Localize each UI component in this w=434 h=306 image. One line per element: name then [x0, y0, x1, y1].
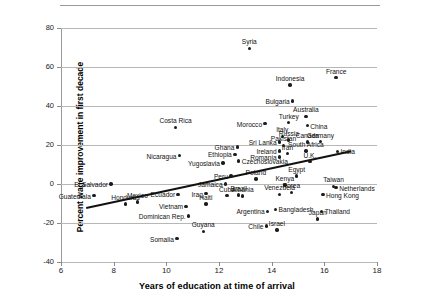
data-point-label: Ghana	[215, 143, 235, 150]
data-point-label: China	[310, 122, 327, 129]
data-point-label: Syria	[242, 38, 257, 45]
data-point	[237, 159, 240, 162]
data-point-label: Costa Rica	[159, 117, 191, 124]
data-point-label: Egypt	[288, 165, 305, 172]
data-point	[334, 186, 337, 189]
data-point-label: Australia	[293, 106, 319, 113]
data-point	[274, 208, 277, 211]
data-point-label: France	[326, 67, 347, 74]
data-point-label: El Salvador	[74, 181, 108, 188]
data-point-label: Taiwan	[323, 176, 344, 183]
data-point	[306, 124, 309, 127]
data-point	[308, 160, 311, 163]
data-point	[176, 193, 179, 196]
data-point-label: Israel	[269, 219, 285, 226]
data-point-label: Hong Kong	[326, 191, 359, 198]
data-point	[225, 194, 228, 197]
y-tick-label: 80	[26, 24, 54, 32]
data-point-label: Argentina	[236, 208, 264, 215]
data-point	[304, 115, 307, 118]
data-point	[316, 217, 319, 220]
data-point	[136, 200, 139, 203]
data-point	[237, 193, 240, 196]
data-point-label: Guyana	[192, 221, 215, 228]
data-point	[291, 99, 294, 102]
data-point-label: Morocco	[237, 120, 262, 127]
y-tick-label: 20	[26, 141, 54, 149]
data-point-label: Ecuador	[151, 191, 176, 198]
data-point	[204, 202, 207, 205]
plot-area: Percent wage improvement in first decade…	[61, 28, 377, 262]
data-point	[124, 202, 127, 205]
scatter-plot-figure: Years of education at time of arrival Pe…	[0, 0, 434, 306]
data-point	[290, 191, 293, 194]
data-point	[334, 76, 337, 79]
data-point-label: Somalia	[150, 235, 174, 242]
x-axis-title: Years of education at time of arrival	[0, 281, 434, 291]
data-point-label: Ireland	[256, 147, 276, 154]
data-point	[187, 214, 190, 217]
data-point-label: Yugoslavia	[188, 159, 220, 166]
data-point	[92, 194, 95, 197]
data-point-label: Netherlands	[339, 184, 375, 191]
data-point-label: Poland	[246, 169, 267, 176]
y-tick-label: 0	[26, 180, 54, 188]
data-point-label: Bulgaria	[266, 98, 290, 105]
data-point-label: Mexico	[127, 192, 148, 199]
data-point	[295, 174, 298, 177]
gridline-y	[61, 28, 377, 29]
data-point-label: Germany	[307, 131, 334, 138]
data-point	[178, 154, 181, 157]
data-point-label: Dominican Rep.	[139, 213, 186, 220]
data-point	[236, 145, 239, 148]
data-point-label: Romania	[250, 154, 276, 161]
data-point-label: India	[341, 148, 355, 155]
y-axis-title: Percent wage improvement in first decade	[75, 37, 85, 257]
x-tick-label: 12	[207, 266, 231, 275]
x-tick-label: 10	[154, 266, 178, 275]
y-tick-label: 40	[26, 102, 54, 110]
data-point	[174, 126, 177, 129]
x-tick-label: 16	[312, 266, 336, 275]
data-point	[265, 224, 268, 227]
data-point-label: Guatemala	[59, 192, 91, 199]
data-point-label: Kenya	[275, 174, 294, 181]
data-point-label: Chile	[248, 222, 263, 229]
data-point	[233, 153, 236, 156]
data-point	[288, 83, 291, 86]
data-point-label: Indonesia	[276, 74, 305, 81]
y-tick-mark	[57, 67, 61, 68]
y-tick-mark	[57, 145, 61, 146]
data-point-label: Vietnam	[159, 203, 183, 210]
x-tick-label: 8	[102, 266, 126, 275]
data-point	[286, 152, 289, 155]
data-point	[287, 121, 290, 124]
data-point-label: Peru	[214, 172, 228, 179]
data-point	[241, 194, 244, 197]
data-point	[263, 122, 266, 125]
data-point-label: Ethiopia	[208, 151, 232, 158]
x-tick-label: 18	[365, 266, 389, 275]
data-point	[266, 210, 269, 213]
data-point	[175, 237, 178, 240]
data-point	[184, 205, 187, 208]
data-point	[278, 155, 281, 158]
data-point	[202, 230, 205, 233]
gridline-y	[61, 106, 377, 107]
x-tick-label: 6	[49, 266, 73, 275]
data-point	[221, 161, 224, 164]
y-tick-mark	[57, 223, 61, 224]
gridline-y	[61, 223, 377, 224]
header-rule	[60, 5, 380, 6]
x-tick-label: 14	[260, 266, 284, 275]
data-point-label: Korea	[283, 182, 301, 189]
data-point-label: Turkey	[279, 112, 299, 119]
data-point-label: Albania	[232, 186, 254, 193]
data-point	[278, 149, 281, 152]
data-point	[275, 228, 278, 231]
y-tick-label: -40	[26, 258, 54, 266]
data-point-label: Thailand	[325, 208, 350, 215]
y-tick-mark	[57, 106, 61, 107]
y-tick-label: -20	[26, 219, 54, 227]
y-tick-label: 60	[26, 63, 54, 71]
